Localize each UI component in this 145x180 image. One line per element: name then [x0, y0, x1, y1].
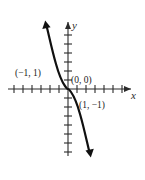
- cubic-graph-figure: y x (−1, 1) (0, 0) (1, −1): [0, 0, 145, 180]
- curve-arrow-up-icon: [42, 21, 50, 30]
- point-label-pos1: (1, −1): [79, 100, 105, 111]
- x-axis-label: x: [130, 89, 136, 101]
- x-axis-arrow-icon: [124, 86, 131, 92]
- curve-arrow-down-icon: [86, 149, 94, 158]
- coordinate-plane-svg: y x (−1, 1) (0, 0) (1, −1): [0, 0, 145, 180]
- point-label-neg1: (−1, 1): [15, 68, 41, 79]
- y-axis-label: y: [71, 19, 77, 31]
- y-axis-arrow-icon: [65, 22, 71, 29]
- point-label-origin: (0, 0): [71, 75, 92, 86]
